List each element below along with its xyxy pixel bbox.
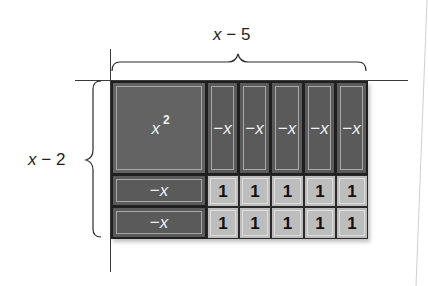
unit-tile: 1: [207, 207, 239, 239]
unit-tile-label: 1: [283, 215, 292, 232]
left-label-number: 2: [56, 150, 65, 169]
left-label-operator: −: [41, 150, 51, 169]
top-label-variable: x: [213, 25, 222, 44]
negative-x-tile-vertical: −x: [303, 81, 336, 175]
unit-tile-label: 1: [250, 215, 259, 232]
unit-tile-label: 1: [218, 215, 227, 232]
unit-tile: 1: [336, 175, 368, 207]
left-label-variable: x: [28, 150, 37, 169]
tile-variable: x: [160, 213, 169, 232]
minus-sign: −: [150, 181, 160, 200]
negative-x-tile-vertical: −x: [206, 81, 239, 175]
algebra-tile-grid: x2 −x −x −x −x −x −x −x 1 1 1 1 1 1 1 1 …: [111, 81, 368, 239]
minus-sign: −: [278, 119, 288, 138]
minus-sign: −: [342, 119, 352, 138]
unit-tile-label: 1: [315, 183, 324, 200]
negative-x-tile-vertical: −x: [238, 81, 271, 175]
top-label-number: 5: [241, 25, 250, 44]
unit-tile: 1: [336, 207, 368, 239]
tile-variable: x: [352, 119, 361, 138]
unit-tile: 1: [304, 207, 336, 239]
unit-tile-label: 1: [250, 183, 259, 200]
top-label-operator: −: [226, 25, 236, 44]
negative-x-tile-vertical: −x: [335, 81, 368, 175]
tile-variable: x: [288, 119, 297, 138]
left-dimension-label: x − 2: [28, 151, 65, 168]
x-squared-variable: x: [151, 119, 160, 138]
negative-x-tile-horizontal: −x: [111, 174, 207, 207]
minus-sign: −: [213, 119, 223, 138]
x-squared-label: x2: [151, 120, 166, 137]
x-squared-exponent: 2: [163, 113, 170, 127]
unit-tile: 1: [239, 175, 271, 207]
unit-tile: 1: [207, 175, 239, 207]
x-squared-tile: x2: [111, 81, 207, 175]
tile-variable: x: [255, 119, 264, 138]
tile-variable: x: [160, 181, 169, 200]
minus-sign: −: [310, 119, 320, 138]
minus-sign: −: [150, 213, 160, 232]
negative-x-tile-horizontal: −x: [111, 206, 207, 239]
top-dimension-label: x − 5: [213, 26, 250, 43]
unit-tile-label: 1: [347, 183, 356, 200]
tile-variable: x: [223, 119, 232, 138]
unit-tile: 1: [304, 175, 336, 207]
unit-tile: 1: [271, 207, 304, 239]
unit-tile: 1: [271, 175, 304, 207]
negative-x-tile-vertical: −x: [270, 81, 304, 175]
unit-tile: 1: [239, 207, 271, 239]
unit-tile-label: 1: [315, 215, 324, 232]
unit-tile-label: 1: [218, 183, 227, 200]
unit-tile-label: 1: [283, 183, 292, 200]
tile-variable: x: [320, 119, 329, 138]
unit-tile-label: 1: [347, 215, 356, 232]
minus-sign: −: [245, 119, 255, 138]
